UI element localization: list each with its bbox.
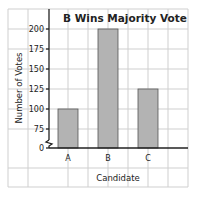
svg-text:175: 175 (29, 45, 44, 54)
bar-C (138, 89, 158, 148)
svg-text:B: B (105, 154, 111, 163)
svg-text:200: 200 (29, 25, 44, 34)
svg-text:C: C (145, 154, 151, 163)
x-axis-label: Candidate (96, 173, 139, 183)
bar-chart: B Wins Majority Vote 200 175 150 125 100… (0, 0, 201, 199)
svg-text:0: 0 (39, 144, 44, 153)
svg-text:125: 125 (29, 85, 44, 94)
svg-text:A: A (65, 154, 71, 163)
svg-text:100: 100 (29, 105, 44, 114)
y-tick-labels: 200 175 150 125 100 75 0 (29, 25, 44, 153)
y-axis-label: Number of Votes (14, 52, 24, 124)
x-tick-labels: A B C (65, 154, 151, 163)
bar-B (98, 29, 118, 148)
bar-A (58, 109, 78, 148)
chart-title: B Wins Majority Vote (63, 12, 187, 24)
svg-text:75: 75 (34, 125, 44, 134)
svg-text:150: 150 (29, 65, 44, 74)
